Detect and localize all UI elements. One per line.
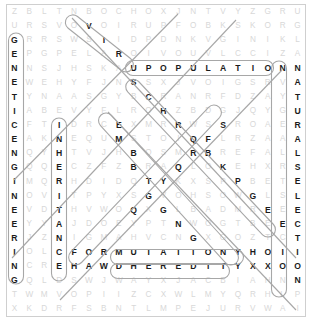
grid-cell-found[interactable]: A (216, 62, 231, 76)
grid-cell-found[interactable]: I (52, 189, 67, 203)
grid-cell[interactable]: P (156, 19, 171, 33)
grid-cell[interactable]: Y (96, 189, 111, 203)
grid-cell[interactable]: F (216, 90, 231, 104)
grid-cell[interactable]: T (7, 288, 22, 302)
grid-cell[interactable]: E (186, 302, 201, 316)
grid-cell-found[interactable]: E (7, 217, 22, 231)
grid-cell-found[interactable]: T (230, 62, 245, 76)
grid-cell[interactable]: J (22, 231, 37, 245)
grid-cell-found[interactable]: S (216, 118, 231, 132)
grid-cell[interactable]: E (67, 47, 82, 61)
grid-cell[interactable]: Y (230, 5, 245, 19)
grid-cell-found[interactable]: N (52, 231, 67, 245)
grid-cell[interactable]: A (260, 90, 275, 104)
grid-cell[interactable]: F (96, 104, 111, 118)
grid-cell[interactable]: N (37, 90, 52, 104)
grid-cell-found[interactable]: Q (126, 203, 141, 217)
grid-cell-found[interactable]: X (245, 259, 260, 273)
grid-cell[interactable]: J (52, 62, 67, 76)
grid-cell[interactable]: S (230, 19, 245, 33)
grid-cell[interactable]: S (37, 62, 52, 76)
grid-cell[interactable]: R (22, 33, 37, 47)
grid-cell[interactable]: O (156, 132, 171, 146)
grid-cell[interactable]: Y (67, 76, 82, 90)
grid-cell[interactable]: R (275, 19, 290, 33)
grid-cell[interactable]: O (67, 288, 82, 302)
grid-cell[interactable]: K (275, 33, 290, 47)
grid-cell[interactable]: N (186, 90, 201, 104)
grid-cell[interactable]: L (111, 104, 126, 118)
grid-cell[interactable]: G (81, 231, 96, 245)
grid-cell[interactable]: P (81, 288, 96, 302)
grid-cell[interactable]: S (245, 76, 260, 90)
grid-cell[interactable]: Q (22, 161, 37, 175)
grid-cell[interactable]: R (260, 76, 275, 90)
grid-cell-found[interactable]: E (290, 175, 305, 189)
grid-cell[interactable]: V (52, 19, 67, 33)
grid-cell[interactable]: Q (22, 274, 37, 288)
grid-cell-found[interactable]: O (156, 62, 171, 76)
grid-cell[interactable]: E (230, 146, 245, 160)
grid-cell[interactable]: B (81, 5, 96, 19)
grid-cell[interactable]: W (186, 118, 201, 132)
grid-cell[interactable]: V (275, 76, 290, 90)
grid-cell[interactable]: L (37, 5, 52, 19)
grid-cell[interactable]: C (230, 47, 245, 61)
grid-cell[interactable]: M (201, 288, 216, 302)
grid-cell-found[interactable]: H (156, 104, 171, 118)
grid-cell[interactable]: A (260, 146, 275, 160)
grid-cell-found[interactable]: F (201, 132, 216, 146)
grid-cell[interactable]: N (111, 302, 126, 316)
grid-cell[interactable]: C (201, 274, 216, 288)
grid-cell-found[interactable]: N (290, 62, 305, 76)
grid-cell[interactable]: F (67, 302, 82, 316)
grid-cell[interactable]: G (37, 47, 52, 61)
grid-cell[interactable]: A (156, 161, 171, 175)
grid-cell-found[interactable]: N (7, 146, 22, 160)
grid-cell[interactable]: S (81, 90, 96, 104)
grid-cell-found[interactable]: I (7, 104, 22, 118)
grid-cell-found[interactable]: O (260, 245, 275, 259)
grid-cell[interactable]: N (171, 231, 186, 245)
grid-cell[interactable]: A (275, 132, 290, 146)
grid-cell-found[interactable]: C (141, 90, 156, 104)
grid-cell-found[interactable]: U (186, 62, 201, 76)
grid-cell[interactable]: T (52, 5, 67, 19)
grid-cell[interactable]: L (186, 161, 201, 175)
grid-cell[interactable]: V (156, 189, 171, 203)
grid-cell-found[interactable]: G (7, 161, 22, 175)
grid-cell[interactable]: A (245, 274, 260, 288)
grid-cell-found[interactable]: C (290, 217, 305, 231)
grid-cell[interactable]: T (141, 132, 156, 146)
grid-cell-found[interactable]: C (52, 245, 67, 259)
grid-cell[interactable]: D (37, 302, 52, 316)
grid-cell[interactable]: W (22, 76, 37, 90)
grid-cell[interactable]: A (275, 302, 290, 316)
grid-cell[interactable]: O (201, 217, 216, 231)
grid-cell[interactable]: L (81, 47, 96, 61)
grid-cell[interactable]: F (81, 76, 96, 90)
grid-cell[interactable]: L (216, 132, 231, 146)
grid-cell[interactable]: J (96, 146, 111, 160)
grid-cell[interactable]: Z (245, 132, 260, 146)
grid-cell[interactable]: J (67, 217, 82, 231)
grid-cell-found[interactable]: O (201, 245, 216, 259)
grid-cell[interactable]: Z (111, 161, 126, 175)
grid-cell[interactable]: R (22, 19, 37, 33)
grid-cell[interactable]: X (156, 5, 171, 19)
grid-cell[interactable]: Y (275, 90, 290, 104)
grid-cell[interactable]: F (22, 118, 37, 132)
grid-cell[interactable]: L (37, 245, 52, 259)
grid-cell[interactable]: L (141, 302, 156, 316)
grid-cell[interactable]: Z (37, 231, 52, 245)
grid-cell[interactable]: N (111, 76, 126, 90)
grid-cell[interactable]: V (201, 47, 216, 61)
grid-cell[interactable]: H (126, 5, 141, 19)
grid-cell[interactable]: I (111, 19, 126, 33)
grid-cell[interactable]: S (81, 302, 96, 316)
grid-cell-found[interactable]: O (290, 259, 305, 273)
grid-cell[interactable]: F (96, 161, 111, 175)
grid-cell[interactable]: B (186, 104, 201, 118)
grid-cell-found[interactable]: P (141, 62, 156, 76)
grid-cell[interactable]: I (67, 231, 82, 245)
